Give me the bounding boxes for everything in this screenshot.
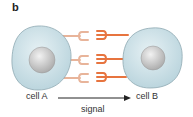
cell-a-label: cell A (26, 91, 48, 101)
signal-arrow (58, 95, 131, 101)
signal-label: signal (81, 104, 105, 114)
cellB-cell-icon (123, 28, 182, 88)
cell-b-label: cell B (136, 91, 158, 101)
cellA-cell-icon (12, 26, 71, 90)
